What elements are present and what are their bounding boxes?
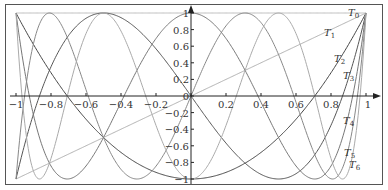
y-tick-label: 0.6	[173, 41, 189, 52]
x-tick-label: 0.4	[253, 99, 269, 110]
y-tick-label: 0	[183, 91, 189, 102]
y-tick-label: −0.6	[165, 141, 189, 152]
x-tick-label: −0.8	[39, 99, 63, 110]
y-tick-label: 0.2	[173, 74, 189, 85]
x-tick-label: 1	[365, 99, 371, 110]
x-tick-label: 0.8	[323, 99, 339, 110]
y-tick-label: 1	[183, 8, 189, 19]
x-tick-label: −0.6	[74, 99, 98, 110]
y-tick-label: −1	[174, 174, 189, 185]
y-tick-label: 0.4	[173, 58, 189, 69]
x-tick-label: 0.2	[218, 99, 234, 110]
y-tick-label: −0.4	[165, 124, 189, 135]
y-tick-label: 0.8	[173, 25, 189, 36]
x-tick-label: 0.6	[288, 99, 304, 110]
y-tick-label: −0.8	[165, 157, 189, 168]
x-tick-label: −0.4	[109, 99, 133, 110]
chebyshev-chart: −1−0.8−0.6−0.4−0.20.20.40.60.81 −1−0.8−0…	[0, 0, 388, 190]
y-tick-label: −0.2	[165, 108, 189, 119]
x-tick-label: −1	[9, 99, 24, 110]
